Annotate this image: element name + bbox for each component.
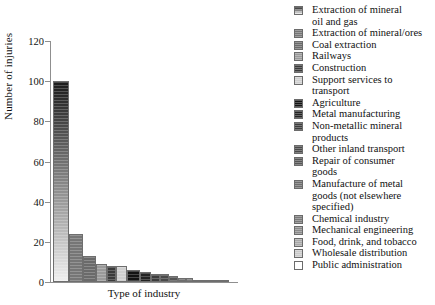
bar-texture — [128, 271, 139, 281]
legend-label: Railways — [309, 50, 351, 62]
legend-item[interactable]: Wholesale distribution — [294, 247, 435, 259]
bar-texture — [54, 82, 68, 281]
legend-item[interactable]: Extraction of mineral/ores — [294, 27, 435, 39]
y-tick-mark — [45, 162, 50, 163]
legend-swatch — [294, 180, 303, 189]
bar-chart-figure: Number of injuries 020406080100120 Type … — [0, 0, 435, 305]
y-tick-mark — [45, 41, 50, 42]
legend-label: Non-metallic mineral products — [309, 120, 402, 143]
legend-item[interactable]: Other inland transport — [294, 143, 435, 155]
legend-label: Extraction of mineral/ores — [309, 27, 422, 39]
legend-label: Agriculture — [309, 97, 360, 109]
bar — [169, 276, 178, 282]
legend-swatch-texture — [295, 158, 302, 165]
bar-texture — [187, 279, 192, 281]
bar — [96, 264, 107, 282]
legend-item[interactable]: Repair of consumer goods — [294, 155, 435, 178]
legend-swatch — [294, 157, 303, 166]
legend-swatch-wrap — [294, 50, 309, 61]
legend-swatch — [294, 41, 303, 50]
bar — [202, 280, 211, 282]
legend-swatch-texture — [295, 53, 302, 60]
legend-swatch — [294, 249, 303, 258]
bar — [127, 270, 140, 282]
legend-swatch-wrap — [294, 143, 309, 154]
y-tick-mark — [45, 121, 50, 122]
legend-swatch — [294, 215, 303, 224]
bar — [178, 278, 186, 282]
bar-texture — [141, 273, 150, 281]
y-tick-label: 120 — [4, 36, 44, 47]
legend-swatch-texture — [295, 250, 302, 257]
legend-swatch-wrap — [294, 4, 309, 15]
bar — [193, 280, 202, 282]
legend-swatch — [294, 226, 303, 235]
legend-swatch-wrap — [294, 120, 309, 131]
legend-swatch-wrap — [294, 27, 309, 38]
legend-swatch — [294, 145, 303, 154]
legend-item[interactable]: Chemical industry — [294, 213, 435, 225]
legend-swatch — [294, 110, 303, 119]
legend-item[interactable]: Public administration — [294, 259, 435, 271]
y-tick-label: 60 — [4, 156, 44, 167]
y-axis-ticks: 020406080100120 — [0, 0, 44, 305]
y-tick-mark — [45, 81, 50, 82]
bar — [151, 274, 160, 282]
bar — [53, 81, 69, 282]
y-tick-label: 100 — [4, 76, 44, 87]
legend-item[interactable]: Support services to transport — [294, 74, 435, 97]
bar-texture — [170, 277, 177, 281]
legend-swatch-texture — [295, 262, 302, 269]
legend-item[interactable]: Extraction of mineral oil and gas — [294, 4, 435, 27]
y-tick-mark — [45, 282, 50, 283]
legend-item[interactable]: Food, drink, and tobacco — [294, 236, 435, 248]
legend-swatch-wrap — [294, 155, 309, 166]
y-tick-label: 20 — [4, 236, 44, 247]
legend-label: Construction — [309, 62, 366, 74]
legend-item[interactable]: Manufacture of metal goods (not elsewher… — [294, 178, 435, 213]
legend-item[interactable]: Railways — [294, 50, 435, 62]
legend-swatch-wrap — [294, 108, 309, 119]
legend-swatch-wrap — [294, 97, 309, 108]
bar — [116, 266, 127, 282]
legend-swatch-texture — [295, 181, 302, 188]
legend-swatch-texture — [295, 216, 302, 223]
legend-swatch-wrap — [294, 236, 309, 247]
bar-texture — [179, 279, 185, 281]
bar-series — [52, 41, 238, 282]
legend-swatch — [294, 64, 303, 73]
legend-item[interactable]: Non-metallic mineral products — [294, 120, 435, 143]
legend-swatch-texture — [295, 111, 302, 118]
legend-swatch-wrap — [294, 247, 309, 258]
bar — [160, 274, 169, 282]
bar-texture — [161, 275, 168, 281]
legend-label: Wholesale distribution — [309, 247, 407, 259]
legend-label: Support services to transport — [309, 74, 393, 97]
legend-swatch-texture — [295, 42, 302, 49]
bar-texture — [108, 267, 115, 281]
legend-swatch-wrap — [294, 62, 309, 73]
legend-swatch-wrap — [294, 213, 309, 224]
legend-label: Metal manufacturing — [309, 108, 400, 120]
legend-swatch-texture — [295, 100, 302, 107]
bar-texture — [97, 265, 106, 281]
y-tick-mark — [45, 242, 50, 243]
x-axis-spine — [50, 282, 238, 283]
legend-swatch-texture — [295, 77, 302, 84]
legend-item[interactable]: Coal extraction — [294, 39, 435, 51]
legend-item[interactable]: Metal manufacturing — [294, 108, 435, 120]
legend-swatch-texture — [295, 146, 302, 153]
legend-swatch-texture — [295, 65, 302, 72]
legend-swatch — [294, 6, 303, 15]
bar — [69, 234, 83, 282]
bar-texture — [84, 257, 95, 281]
legend-item[interactable]: Mechanical engineering — [294, 224, 435, 236]
legend-swatch — [294, 261, 303, 270]
bar — [186, 278, 193, 282]
y-tick-label: 0 — [4, 277, 44, 288]
legend-swatch-wrap — [294, 178, 309, 189]
legend-label: Food, drink, and tobacco — [309, 236, 417, 248]
legend-item[interactable]: Construction — [294, 62, 435, 74]
legend-item[interactable]: Agriculture — [294, 97, 435, 109]
legend-swatch-texture — [295, 227, 302, 234]
